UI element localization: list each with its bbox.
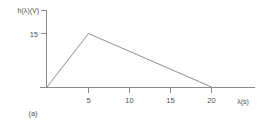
x-axis-title: λ(s) <box>237 98 249 106</box>
y-axis-title: h(λ)(V) <box>18 7 39 15</box>
chart-plot: h(λ)(V) 15 5 10 15 20 λ(s) (a) <box>0 0 268 122</box>
y-tick-label-15: 15 <box>30 30 38 39</box>
x-tick-label-15: 15 <box>166 96 174 105</box>
x-tick-label-20: 20 <box>207 96 215 105</box>
data-series-line <box>47 34 212 88</box>
x-tick-label-5: 5 <box>86 96 90 105</box>
x-tick-label-10: 10 <box>125 96 133 105</box>
figure-caption: (a) <box>28 109 38 118</box>
figure-container: h(λ)(V) 15 5 10 15 20 λ(s) (a) <box>0 0 268 122</box>
